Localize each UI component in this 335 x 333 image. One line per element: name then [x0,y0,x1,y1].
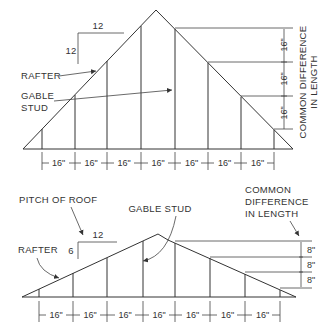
svg-text:16": 16" [218,158,231,168]
pitch-rise-label: 6 [68,245,74,256]
common-difference-label-3: IN LENGTH [245,208,298,219]
common-difference-label-1: COMMON DIFFERENCE [297,26,308,139]
svg-text:16": 16" [279,38,289,51]
svg-text:16": 16" [256,310,269,320]
bottom-rafters [22,234,296,297]
top-vertical-dimensions: 16" 16" 16" [279,29,289,129]
pitch-rise-label: 12 [65,45,76,56]
top-spacing-dimensions: 16" 16" 16" 16" 16" 16" 16" [42,152,274,170]
top-studs [42,26,274,149]
bottom-extension-lines [175,241,312,288]
svg-text:16": 16" [151,158,164,168]
svg-text:16": 16" [279,72,289,85]
common-difference-label-1: COMMON [245,184,291,195]
common-difference-label-2: IN LENGTH [308,55,319,108]
pitch-run-label: 12 [92,229,103,240]
svg-text:8": 8" [307,260,315,270]
gable-stud-diagram: 12 12 RAFTER GABLE STUD 16" 16" 16" COMM… [0,0,335,333]
svg-text:16": 16" [117,158,130,168]
gable-stud-label: GABLE STUD [128,203,191,214]
top-gable-diagram: 12 12 RAFTER GABLE STUD 16" 16" 16" COMM… [21,10,319,170]
common-difference-arrow [290,221,299,236]
svg-text:16": 16" [185,158,198,168]
gable-stud-label-2: STUD [21,102,48,113]
svg-text:8": 8" [307,245,315,255]
top-extension-lines [175,28,293,129]
bottom-studs [39,241,280,297]
rafter-label: RAFTER [21,70,61,81]
svg-text:8": 8" [307,275,315,285]
top-pitch-symbol: 12 12 [65,20,124,64]
gable-stud-label-1: GABLE [21,90,54,101]
bottom-pitch-symbol: 12 6 [68,229,117,259]
svg-text:16": 16" [221,310,234,320]
rafter-arrow [37,258,59,278]
svg-text:16": 16" [83,310,96,320]
bottom-vertical-dimensions: 8" 8" 8" [299,242,315,287]
svg-text:16": 16" [52,158,65,168]
bottom-gable-diagram: 12 6 PITCH OF ROOF RAFTER GABLE STUD COM… [18,184,315,322]
svg-text:16": 16" [49,310,62,320]
rafter-label: RAFTER [18,244,58,255]
gable-stud-arrow [54,90,172,101]
svg-text:16": 16" [84,158,97,168]
pitch-of-roof-label: PITCH OF ROOF [19,194,97,205]
svg-text:16": 16" [279,106,289,119]
top-rafters [23,10,293,149]
svg-text:16": 16" [186,310,199,320]
pitch-run-label: 12 [92,20,103,31]
rafter-arrow [59,71,96,76]
svg-text:16": 16" [251,158,264,168]
bottom-spacing-dimensions: 16" 16" 16" 16" 16" 16" 16" [39,301,280,322]
svg-text:16": 16" [152,310,165,320]
pitch-arrow [71,207,83,235]
svg-text:16": 16" [118,310,131,320]
common-difference-label-2: DIFFERENCE [245,196,309,207]
